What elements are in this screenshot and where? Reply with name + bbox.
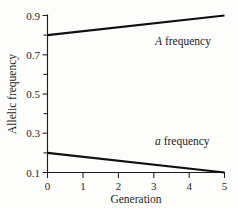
x-axis-tick-labels: 0 1 2 3 4 5: [45, 180, 228, 192]
y-tick-label-1: 0.7: [26, 49, 40, 61]
y-axis-tick-labels: 0.9 0.7 0.5 0.3 0.1: [26, 10, 40, 179]
x-tick-label-0: 0: [45, 180, 51, 192]
x-tick-label-3: 3: [151, 180, 157, 192]
series-label-a-frequency: a frequency: [155, 135, 210, 148]
series-label-a-suffix: frequency: [161, 135, 210, 148]
x-axis-ticks: [48, 173, 225, 179]
allelic-frequency-line-chart: 0.9 0.7 0.5 0.3 0.1 0 1 2 3 4 5: [0, 0, 238, 209]
y-tick-label-3: 0.3: [26, 127, 40, 139]
x-tick-label-4: 4: [186, 180, 192, 192]
x-axis-title: Generation: [110, 193, 161, 205]
y-axis-ticks: [43, 16, 48, 173]
x-tick-label-2: 2: [116, 180, 122, 192]
x-tick-label-5: 5: [222, 180, 228, 192]
y-tick-label-4: 0.1: [26, 167, 40, 179]
y-axis-title: Allelic frequency: [6, 54, 19, 134]
x-tick-label-1: 1: [80, 180, 86, 192]
series-line-A-frequency: [48, 16, 225, 36]
chart-figure: 0.9 0.7 0.5 0.3 0.1 0 1 2 3 4 5: [0, 0, 238, 209]
series-line-a-frequency: [48, 153, 225, 173]
y-tick-label-0: 0.9: [26, 10, 40, 22]
series-labels: A frequency a frequency: [154, 35, 211, 148]
series-label-A-suffix: frequency: [162, 35, 211, 48]
series-label-A-frequency: A frequency: [154, 35, 211, 48]
y-tick-label-2: 0.5: [26, 88, 40, 100]
